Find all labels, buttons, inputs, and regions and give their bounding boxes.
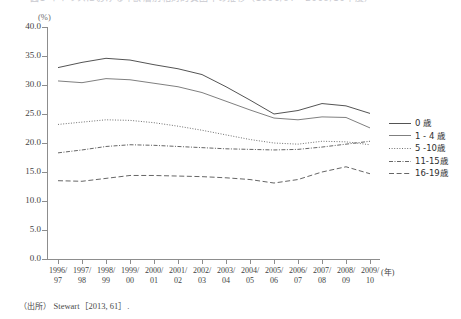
legend-item-label: 0 歳 xyxy=(415,117,432,130)
x-axis-tick-label-year2: 10 xyxy=(349,276,391,286)
chart-legend: 0 歳1 - 4 歳5 -10歳11-15歳16-19歳 xyxy=(389,117,459,180)
legend-line-icon xyxy=(389,169,411,178)
legend-item-2[interactable]: 1 - 4 歳 xyxy=(389,130,459,143)
legend-item-label: 5 -10歳 xyxy=(415,142,446,155)
y-axis-tick-label: 0.0 xyxy=(7,254,41,263)
x-axis-tick xyxy=(202,259,203,264)
y-axis-tick-label: 40.0 xyxy=(7,22,41,31)
x-axis-tick xyxy=(250,259,251,264)
y-axis-tick-label: 10.0 xyxy=(7,196,41,205)
figure-title: 図1 イギリスにおける年齢層別相対的貧困率の推移（1996/97～2009/10… xyxy=(30,0,450,3)
y-axis-tick xyxy=(42,230,47,231)
y-axis-labels: 40.035.030.025.020.015.010.05.00.0 xyxy=(0,0,41,319)
x-axis-tick xyxy=(58,259,59,264)
y-axis-tick xyxy=(42,27,47,28)
x-axis-tick xyxy=(346,259,347,264)
source-text: Stewart［2013, 61］. xyxy=(54,301,130,311)
legend-item-1[interactable]: 0 歳 xyxy=(389,117,459,130)
source-note: （出所） Stewart［2013, 61］. xyxy=(19,299,129,311)
y-axis-tick-label: 35.0 xyxy=(7,51,41,60)
y-axis-tick-label: 20.0 xyxy=(7,138,41,147)
legend-item-3[interactable]: 5 -10歳 xyxy=(389,142,459,155)
x-axis-tick xyxy=(106,259,107,264)
series-line-1 xyxy=(58,58,370,114)
legend-item-5[interactable]: 16-19歳 xyxy=(389,167,459,180)
x-axis-tick xyxy=(370,259,371,264)
x-axis-tick xyxy=(298,259,299,264)
x-axis-tick xyxy=(178,259,179,264)
legend-line-icon xyxy=(389,131,411,140)
series-line-5 xyxy=(58,167,370,183)
x-axis-tick-label: 2009/10 xyxy=(349,266,391,286)
y-axis-tick xyxy=(42,172,47,173)
y-axis-tick-label: 30.0 xyxy=(7,80,41,89)
legend-line-icon xyxy=(389,157,411,166)
series-line-4 xyxy=(58,141,370,153)
chart-figure: 図1 イギリスにおける年齢層別相対的貧困率の推移（1996/97～2009/10… xyxy=(0,0,461,319)
x-axis-tick xyxy=(322,259,323,264)
y-axis-tick xyxy=(42,85,47,86)
series-layer xyxy=(58,58,370,183)
legend-line-icon xyxy=(389,144,411,153)
x-axis-tick xyxy=(82,259,83,264)
y-axis-tick xyxy=(42,114,47,115)
x-axis-tick xyxy=(226,259,227,264)
legend-item-label: 11-15歳 xyxy=(415,155,449,168)
legend-item-label: 1 - 4 歳 xyxy=(415,130,446,143)
y-axis-tick-label: 5.0 xyxy=(7,225,41,234)
x-axis-tick xyxy=(274,259,275,264)
legend-item-label: 16-19歳 xyxy=(415,167,449,180)
x-axis-line xyxy=(47,259,380,260)
y-axis-tick xyxy=(42,259,47,260)
y-axis-tick xyxy=(42,143,47,144)
legend-item-4[interactable]: 11-15歳 xyxy=(389,155,459,168)
y-axis-tick-label: 15.0 xyxy=(7,167,41,176)
x-axis-tick xyxy=(154,259,155,264)
y-axis-tick xyxy=(42,56,47,57)
plot-area xyxy=(47,27,379,259)
source-prefix: （出所） xyxy=(19,302,51,311)
legend-line-icon xyxy=(389,119,411,128)
y-axis-tick xyxy=(42,201,47,202)
y-axis-tick-label: 25.0 xyxy=(7,109,41,118)
x-axis-tick-label-year: 2009/ xyxy=(361,266,379,275)
series-line-3 xyxy=(58,120,370,145)
x-axis-tick xyxy=(130,259,131,264)
